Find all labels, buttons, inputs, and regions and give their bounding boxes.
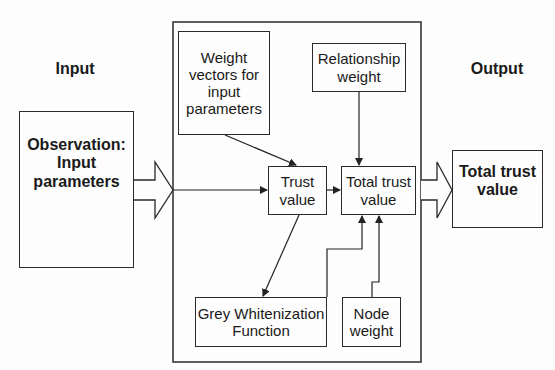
node-weight-text: Node weight: [350, 305, 393, 340]
total-trust-value-inner-box: Total trust value: [341, 166, 416, 215]
trust-model-diagram: Input Output Observation: Input paramete…: [0, 0, 555, 370]
trust-value-box: Trust value: [268, 166, 327, 215]
total-trust-value-inner-text: Total trust value: [346, 173, 411, 208]
node-weight-box: Node weight: [342, 297, 401, 347]
arrow-trust-to-grey: [263, 215, 299, 296]
input-block-arrow: [134, 162, 173, 218]
total-trust-value-output-text: Total trust value: [459, 163, 536, 200]
trust-value-text: Trust value: [280, 173, 316, 208]
relationship-weight-box: Relationship weight: [312, 43, 406, 92]
total-trust-value-output-box: Total trust value: [452, 150, 543, 228]
relationship-weight-text: Relationship weight: [318, 50, 401, 85]
observation-input-box: Observation: Input parameters: [19, 111, 134, 268]
output-block-arrow: [421, 162, 452, 218]
output-section-label: Output: [462, 60, 532, 78]
weight-vectors-text: Weight vectors for input parameters: [186, 49, 262, 118]
arrow-node-to-total: [372, 216, 379, 297]
grey-whitenization-box: Grey Whitenization Function: [195, 297, 327, 347]
grey-whitenization-text: Grey Whitenization Function: [198, 305, 325, 340]
input-section-label: Input: [50, 60, 100, 78]
weight-vectors-box: Weight vectors for input parameters: [178, 31, 270, 135]
observation-input-text: Observation: Input parameters: [27, 136, 126, 191]
arrow-grey-to-total: [327, 216, 362, 297]
arrow-weights-to-trust: [225, 135, 296, 165]
